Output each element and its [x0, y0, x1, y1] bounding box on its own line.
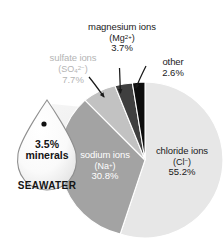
chloride-label-name: chloride ions — [144, 146, 220, 157]
sulfate-formula-sup: 2− — [78, 63, 85, 70]
pie-label-other: other 2.6% — [148, 57, 198, 78]
chloride-label-percent: 55.2% — [144, 167, 220, 178]
pie-label-magnesium: magnesium ions (Mg2+) 3.7% — [76, 22, 168, 53]
droplet-dot — [41, 121, 46, 126]
sulfate-label-percent: 7.7% — [42, 75, 104, 86]
pie-label-chloride: chloride ions (Cl−) 55.2% — [144, 146, 220, 177]
seawater-composition-figure: magnesium ions (Mg2+) 3.7% sulfate ions … — [0, 0, 224, 248]
seawater-caption: SEAWATER — [10, 180, 84, 191]
sulfate-formula-pre: (SO — [58, 64, 74, 74]
magnesium-formula-sup: 2+ — [125, 32, 132, 39]
droplet-mineral-label: 3.5% minerals — [16, 139, 78, 162]
pie-label-sulfate: sulfate ions (SO42−) 7.7% — [42, 53, 104, 85]
pie-label-sodium: sodium ions (Na+) 30.8% — [72, 150, 138, 181]
sulfate-label-name: sulfate ions — [42, 53, 104, 64]
droplet-word: minerals — [16, 150, 78, 161]
sodium-label-name: sodium ions — [72, 150, 138, 161]
sulfate-formula-post: ) — [85, 64, 88, 74]
magnesium-label-name: magnesium ions — [76, 22, 168, 33]
other-label-percent: 2.6% — [148, 68, 198, 79]
